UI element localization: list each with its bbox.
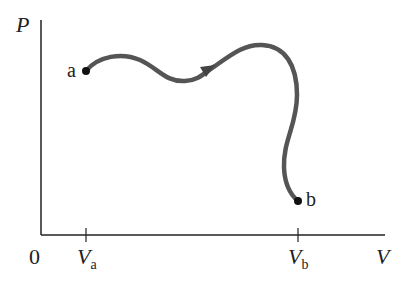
vb-label: Vb (288, 244, 308, 270)
point-a-marker (82, 67, 90, 75)
va-subscript: a (90, 257, 96, 272)
v-axis-label: V (376, 244, 389, 270)
pv-diagram-canvas (0, 0, 420, 290)
point-b-label: b (306, 188, 316, 211)
va-label: Va (77, 244, 97, 270)
vb-symbol: V (288, 244, 301, 269)
origin-label: 0 (29, 244, 40, 270)
vb-subscript: b (301, 257, 308, 272)
process-curve (86, 45, 298, 201)
point-b-marker (294, 197, 302, 205)
p-axis-label: P (16, 12, 29, 38)
va-symbol: V (77, 244, 90, 269)
point-a-label: a (67, 59, 76, 82)
